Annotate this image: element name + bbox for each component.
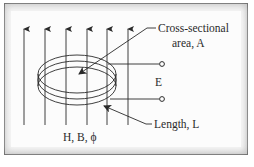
coil-in-magnetic-field-diagram: Cross-sectional area, A E Length, L H, B… — [0, 0, 254, 167]
area-label-line1: Cross-sectional — [158, 22, 229, 34]
magnetic-field-lines — [24, 29, 128, 125]
field-label: H, B, ϕ — [63, 131, 97, 144]
coil-front — [38, 74, 116, 105]
emf-label: E — [155, 76, 162, 88]
area-leader-arrow-icon — [79, 28, 156, 74]
length-label: Length, L — [154, 118, 199, 131]
coil-back — [38, 55, 116, 86]
area-label-line2: area, A — [172, 37, 205, 50]
terminal-bottom-icon — [160, 97, 165, 102]
terminal-top-icon — [160, 62, 165, 67]
